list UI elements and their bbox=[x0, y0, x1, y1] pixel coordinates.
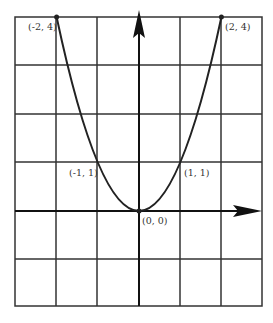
point-marker bbox=[137, 209, 142, 214]
point-marker bbox=[219, 15, 224, 20]
point-label: (1, 1) bbox=[184, 167, 210, 178]
point-label: (0, 0) bbox=[142, 215, 168, 226]
point-label: (-1, 1) bbox=[69, 167, 98, 178]
point-label: (-2, 4) bbox=[28, 21, 57, 32]
axes bbox=[15, 26, 252, 306]
point-marker bbox=[54, 15, 59, 20]
parabola-graph: (-2, 4) (2, 4) (-1, 1) (1, 1) (0, 0) bbox=[0, 0, 273, 323]
point-label: (2, 4) bbox=[225, 21, 251, 32]
